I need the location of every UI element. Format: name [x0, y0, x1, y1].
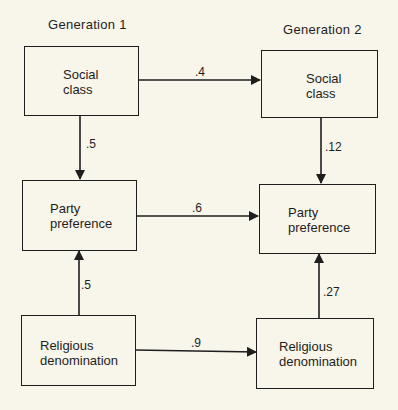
edge-label-religion-g1-g2: .9 — [191, 336, 201, 350]
node-label: preference — [50, 216, 112, 231]
node-label: preference — [288, 220, 350, 235]
node-label: Religious — [279, 339, 332, 354]
edge-label-social-g1-g2: .4 — [195, 65, 205, 79]
edge-label-social-party-g1: .5 — [86, 137, 96, 151]
node-label: Religious — [40, 338, 93, 353]
node-g1-party-preference: Party preference — [22, 180, 137, 251]
edge-label-party-g1-g2: .6 — [192, 201, 202, 215]
edge-label-social-party-g2: .12 — [325, 140, 342, 154]
node-label: Party — [50, 201, 80, 216]
node-g2-party-preference: Party preference — [259, 184, 376, 254]
node-g1-social-class: Social class — [24, 46, 139, 116]
node-label: Social — [63, 67, 98, 82]
edge-label-religion-party-g1: .5 — [81, 278, 91, 292]
node-label: denomination — [279, 354, 357, 369]
node-g2-religious-denomination: Religious denomination — [256, 318, 374, 389]
node-label: denomination — [40, 353, 118, 368]
node-label: class — [306, 86, 336, 101]
node-label: Social — [306, 71, 341, 86]
node-g2-social-class: Social class — [261, 50, 378, 118]
node-label: Party — [288, 205, 318, 220]
edge-label-religion-party-g2: .27 — [323, 285, 340, 299]
arrow-religion-g1-g2 — [135, 350, 256, 352]
node-label: class — [63, 82, 93, 97]
node-g1-religious-denomination: Religious denomination — [21, 315, 136, 386]
